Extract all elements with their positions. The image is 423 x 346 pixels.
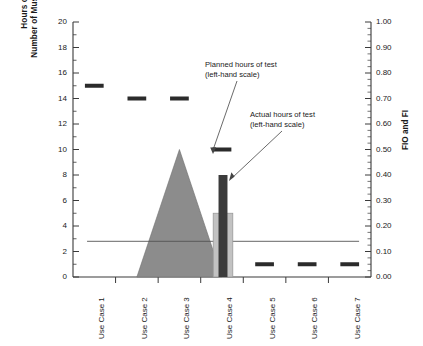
y-axis-right-tick-label: 0.50 bbox=[376, 146, 410, 154]
x-axis-category-label: Use Case 7 bbox=[354, 297, 362, 339]
chart-container: Hours of Test Number of Must-Fix Defects… bbox=[0, 0, 423, 346]
y-axis-right-tick-label: 1.00 bbox=[376, 18, 410, 26]
y-axis-left-tick-label: 8 bbox=[41, 171, 67, 179]
x-axis-category-label: Use Case 6 bbox=[311, 297, 319, 339]
actual-hours-callout-line2: (left-hand scale) bbox=[250, 120, 315, 130]
y-axis-right-ticks bbox=[365, 22, 371, 277]
actual-hours-callout: Actual hours of test (left-hand scale) bbox=[250, 110, 315, 130]
planned-hours-callout-leader bbox=[213, 81, 237, 150]
y-axis-left-tick-label: 16 bbox=[41, 69, 67, 77]
actual-hours-bar bbox=[219, 175, 228, 277]
y-axis-left-ticks bbox=[73, 22, 79, 277]
y-axis-right-tick-label: 0.00 bbox=[376, 273, 410, 281]
x-axis-category-label: Use Case 3 bbox=[183, 297, 191, 339]
x-axis-category-label: Use Case 5 bbox=[269, 297, 277, 339]
planned-hours-marker bbox=[85, 84, 104, 88]
x-axis-category-label: Use Case 2 bbox=[141, 297, 149, 339]
actual-hours-callout-line1: Actual hours of test bbox=[250, 110, 315, 120]
planned-hours-callout-line1: Planned hours of test bbox=[205, 60, 277, 70]
y-axis-left-tick-label: 12 bbox=[41, 120, 67, 128]
planned-hours-callout: Planned hours of test (left-hand scale) bbox=[205, 60, 277, 80]
y-axis-right-tick-label: 0.20 bbox=[376, 222, 410, 230]
x-axis-category-label: Use Case 1 bbox=[98, 297, 106, 339]
y-axis-right-tick-label: 0.10 bbox=[376, 248, 410, 256]
actual-hours-callout-arrowhead bbox=[229, 172, 235, 181]
y-axis-left-tick-label: 2 bbox=[41, 248, 67, 256]
y-axis-left-tick-label: 14 bbox=[41, 95, 67, 103]
planned-hours-callout-line2: (left-hand scale) bbox=[205, 70, 277, 80]
y-axis-left-tick-label: 0 bbox=[41, 273, 67, 281]
planned-hours-marker bbox=[298, 262, 317, 266]
y-axis-right-tick-label: 0.60 bbox=[376, 120, 410, 128]
planned-hours-marker bbox=[255, 262, 274, 266]
y-axis-left-tick-label: 10 bbox=[41, 146, 67, 154]
y-axis-right-tick-label: 0.90 bbox=[376, 44, 410, 52]
x-axis-ticks bbox=[116, 277, 329, 283]
x-axis-category-label: Use Case 4 bbox=[226, 297, 234, 339]
planned-hours-marker bbox=[340, 262, 359, 266]
y-axis-right-tick-label: 0.80 bbox=[376, 69, 410, 77]
planned-hours-marker bbox=[127, 97, 146, 101]
y-axis-right-tick-label: 0.70 bbox=[376, 95, 410, 103]
y-axis-left-tick-label: 6 bbox=[41, 197, 67, 205]
y-axis-right-tick-label: 0.40 bbox=[376, 171, 410, 179]
y-axis-right-tick-label: 0.30 bbox=[376, 197, 410, 205]
defect-density-area bbox=[137, 150, 222, 278]
actual-hours-callout-leader bbox=[232, 131, 282, 178]
y-axis-left-tick-label: 18 bbox=[41, 44, 67, 52]
y-axis-left-tick-label: 4 bbox=[41, 222, 67, 230]
y-axis-left-tick-label: 20 bbox=[41, 18, 67, 26]
planned-hours-marker bbox=[170, 97, 189, 101]
